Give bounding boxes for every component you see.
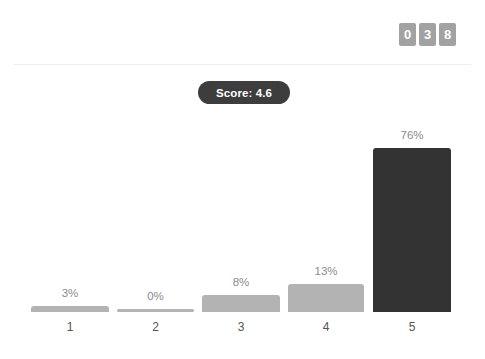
bar-group: 13% bbox=[288, 108, 364, 312]
category-label-3: 3 bbox=[202, 320, 280, 334]
header-divider bbox=[14, 64, 471, 65]
score-badge: Score: 4.6 bbox=[198, 81, 290, 104]
category-label-4: 4 bbox=[288, 320, 364, 334]
bar-value-label: 8% bbox=[202, 276, 280, 288]
bar-group: 76% bbox=[373, 108, 451, 312]
counter-digit-1: 3 bbox=[419, 23, 436, 46]
bar-value-label: 13% bbox=[288, 265, 364, 277]
bar-chart: 3% 0% 8% 13% 76% 1 2 3 4 5 bbox=[0, 108, 485, 359]
bar-value-label: 76% bbox=[373, 129, 451, 141]
bar-4 bbox=[288, 284, 364, 312]
bar-group: 3% bbox=[31, 108, 109, 312]
counter-digit-group: 0 3 8 bbox=[399, 23, 456, 46]
bar-value-label: 0% bbox=[117, 290, 194, 302]
category-label-5: 5 bbox=[373, 320, 451, 334]
counter-digit-2: 8 bbox=[439, 23, 456, 46]
header-bar: 0 3 8 bbox=[0, 0, 485, 65]
counter-digit-0: 0 bbox=[399, 23, 416, 46]
bar-value-label: 3% bbox=[31, 287, 109, 299]
category-label-2: 2 bbox=[117, 320, 194, 334]
chart-plot-area: 3% 0% 8% 13% 76% bbox=[0, 108, 485, 312]
category-label-1: 1 bbox=[31, 320, 109, 334]
bar-5 bbox=[373, 148, 451, 312]
bar-1 bbox=[31, 306, 109, 312]
bar-group: 0% bbox=[117, 108, 194, 312]
bar-group: 8% bbox=[202, 108, 280, 312]
bar-3 bbox=[202, 295, 280, 312]
bar-2 bbox=[117, 309, 194, 312]
